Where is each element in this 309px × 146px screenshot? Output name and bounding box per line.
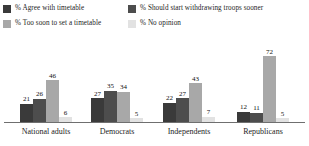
bar-group-bars: 2735345 [86,40,148,123]
legend-item: % Agree with timetable [3,4,84,13]
legend-item: % No opinion [128,19,181,28]
bar: 11 [250,104,263,123]
legend-swatch-icon [3,5,11,13]
bar: 6 [59,109,72,123]
bar: 27 [91,90,104,123]
bar-rect [263,56,276,123]
bar: 46 [46,72,59,123]
legend-item: % Should start withdrawing troops sooner [128,4,263,13]
bar-value-label: 46 [49,72,56,80]
bar-rect [163,103,176,123]
category-label: Independents [150,126,228,137]
bar-rect [104,91,117,123]
plot-area: 2126466273534522274371211725 [0,40,309,123]
bar-value-label: 11 [253,104,260,112]
legend-swatch-icon [128,5,136,13]
bar-rect [91,98,104,123]
bar-value-label: 12 [240,103,247,111]
bar-value-label: 26 [36,90,43,98]
bar-rect [117,92,130,123]
bar-rect [46,80,59,123]
bar: 7 [202,108,215,123]
bar-group-bars: 1211725 [232,40,294,123]
bar-group: 2227437 [158,40,220,123]
bar-value-label: 5 [135,110,138,118]
bar-value-label: 22 [166,94,173,102]
bar-value-label: 72 [266,48,273,56]
bar-value-label: 5 [281,110,284,118]
bar: 43 [189,75,202,123]
bar: 35 [104,82,117,123]
chart-legend: % Agree with timetable% Should start wit… [0,0,309,38]
axis-baseline [4,122,305,123]
bar: 27 [176,90,189,123]
legend-swatch-icon [128,20,136,28]
bar-group-bars: 2227437 [158,40,220,123]
bar-group: 2735345 [86,40,148,123]
bar-value-label: 27 [179,90,186,98]
bar-rect [189,83,202,123]
bar: 21 [20,95,33,123]
bar-value-label: 21 [23,95,30,103]
grouped-bar-chart: % Agree with timetable% Should start wit… [0,0,309,146]
bar: 12 [237,103,250,123]
bar-value-label: 34 [120,83,127,91]
category-label: National adults [7,126,85,137]
legend-item-label: % Should start withdrawing troops sooner [140,4,263,13]
bar-value-label: 6 [64,109,67,117]
category-label: Democrats [78,126,156,137]
bar-group-bars: 2126466 [15,40,77,123]
bar-rect [33,99,46,123]
legend-item-label: % Agree with timetable [15,4,84,13]
legend-item-label: % Too soon to set a timetable [15,19,101,28]
bar-value-label: 7 [207,108,210,116]
legend-swatch-icon [3,20,11,28]
category-axis: National adultsDemocratsIndependentsRepu… [0,126,309,146]
bar-value-label: 43 [192,75,199,83]
legend-item: % Too soon to set a timetable [3,19,101,28]
bar-value-label: 27 [94,90,101,98]
bar-rect [176,98,189,123]
legend-item-label: % No opinion [140,19,181,28]
bar-group: 1211725 [232,40,294,123]
category-label: Republicans [224,126,302,137]
bar: 26 [33,90,46,123]
bar-rect [20,104,33,123]
bar: 72 [263,48,276,123]
bar: 34 [117,83,130,123]
bar-value-label: 35 [107,82,114,90]
bar: 22 [163,94,176,123]
bar-group: 2126466 [15,40,77,123]
